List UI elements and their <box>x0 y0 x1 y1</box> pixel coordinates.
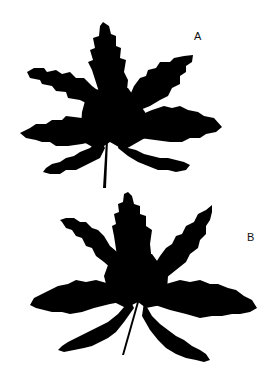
panel-label-a: A <box>194 30 201 42</box>
leaf-a-silhouette <box>20 22 222 188</box>
leaf-figure: A B <box>0 0 270 389</box>
leaf-silhouettes <box>0 0 270 389</box>
leaf-b-silhouette <box>30 192 257 362</box>
panel-label-b: B <box>247 231 254 243</box>
